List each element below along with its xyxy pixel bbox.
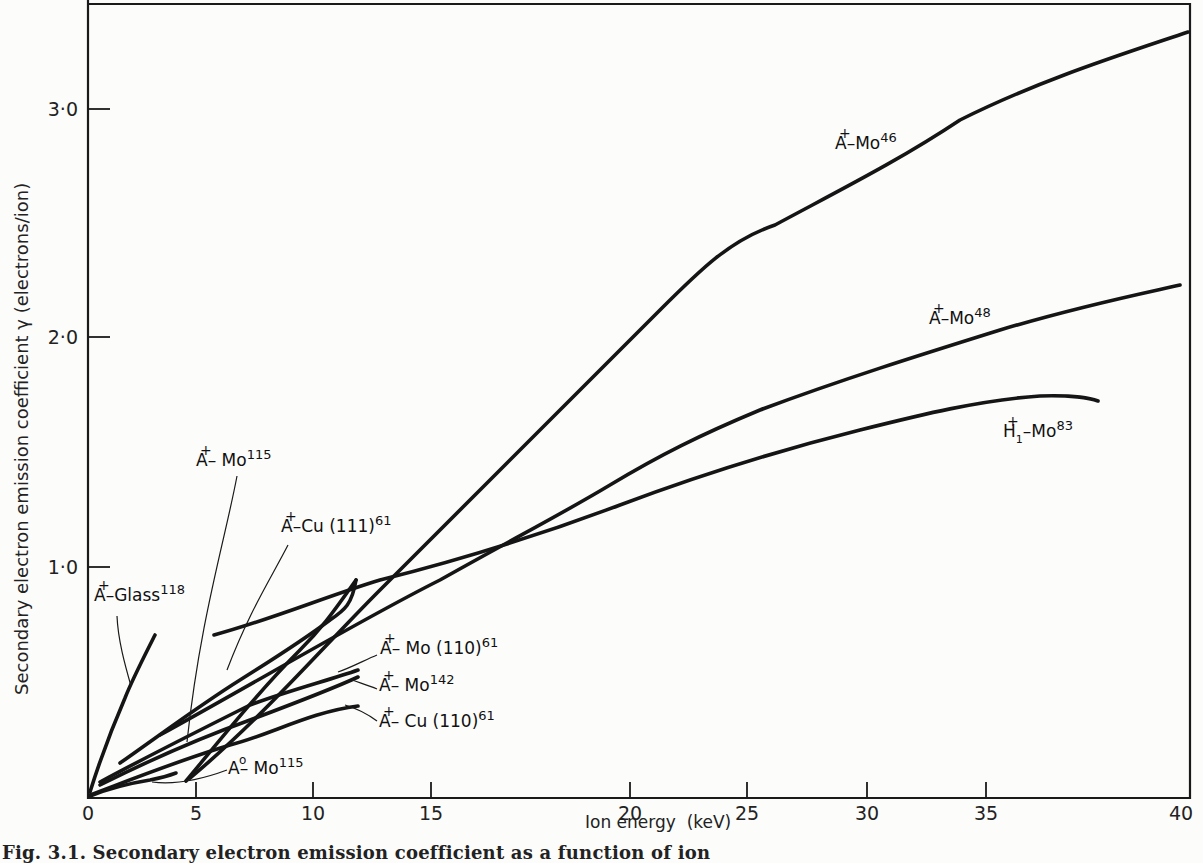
y-tick-1: 1·0 bbox=[48, 556, 78, 578]
label-a-mo-115: A+– Mo115 bbox=[196, 452, 271, 469]
curve-a-mo-46 bbox=[190, 32, 1188, 778]
label-a-mo-142: A+– Mo142 bbox=[379, 677, 454, 694]
x-tick-5: 5 bbox=[190, 802, 202, 824]
x-tick-25: 25 bbox=[735, 802, 759, 824]
label-a-mo-48: A+–Mo48 bbox=[929, 310, 991, 327]
label-a-mo-110: A+– Mo (110)61 bbox=[380, 640, 498, 657]
x-ticks bbox=[196, 782, 986, 798]
x-tick-0: 0 bbox=[82, 802, 94, 824]
figure-caption: Fig. 3.1. Secondary electron emission co… bbox=[2, 842, 710, 863]
label-a-glass-118: A+–Glass118 bbox=[94, 587, 185, 604]
label-a0-mo-115: Ao– Mo115 bbox=[228, 760, 303, 777]
y-tick-3: 3·0 bbox=[48, 98, 78, 120]
x-tick-30: 30 bbox=[855, 802, 879, 824]
y-tick-2: 2·0 bbox=[48, 326, 78, 348]
y-axis-label-wrap: Secondary electron emission coefficient … bbox=[7, 120, 37, 720]
x-tick-10: 10 bbox=[301, 802, 325, 824]
y-axis-label: Secondary electron emission coefficient … bbox=[11, 183, 32, 695]
label-h1-mo-83: H+1–Mo83 bbox=[1003, 423, 1073, 440]
label-a-mo-46: A+–Mo46 bbox=[835, 135, 897, 152]
label-a-cu-111: A+–Cu (111)61 bbox=[281, 518, 391, 535]
y-ticks bbox=[88, 109, 110, 567]
x-tick-35: 35 bbox=[974, 802, 998, 824]
x-axis-label: Ion energy (keV) bbox=[585, 812, 731, 832]
curve-a-mo-48 bbox=[160, 285, 1180, 735]
x-tick-15: 15 bbox=[419, 802, 443, 824]
x-tick-40: 40 bbox=[1169, 802, 1193, 824]
label-a-cu-110: A+– Cu (110)61 bbox=[379, 713, 495, 730]
